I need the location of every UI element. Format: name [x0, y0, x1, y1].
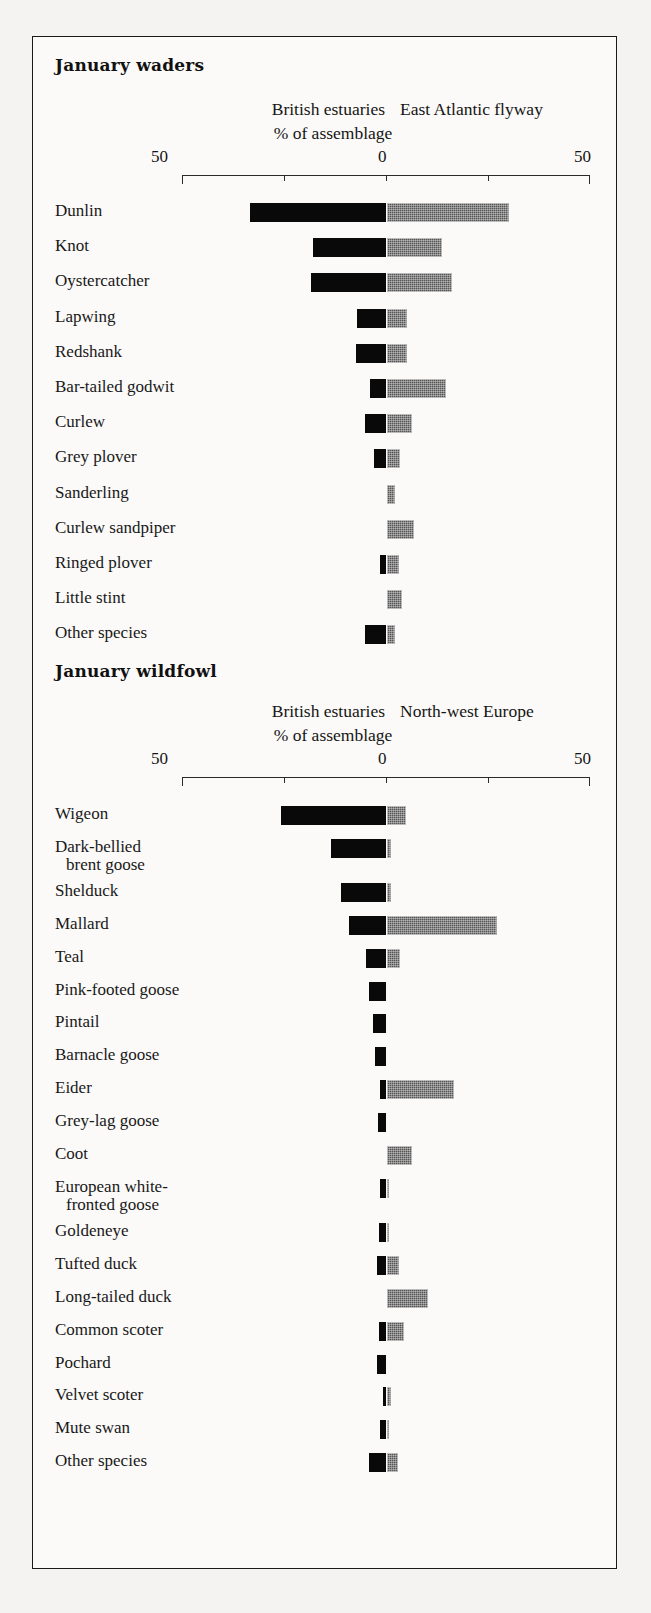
category-label: Curlew sandpiper — [55, 519, 175, 537]
axis-tick-label-left-wildfowl: 50 — [151, 749, 168, 769]
bar-left-british-estuaries — [349, 916, 387, 935]
category-label: Other species — [55, 624, 147, 642]
bar-left-british-estuaries — [379, 1223, 387, 1242]
category-label: Common scoter — [55, 1321, 163, 1339]
bar-right-north-west-europe — [387, 1223, 389, 1242]
panel-title-wildfowl: January wildfowl — [55, 661, 217, 681]
bar-left-british-estuaries — [356, 344, 386, 363]
axis-tick-minor-right-wildfowl — [488, 777, 489, 783]
axis-tick-label-right-wildfowl: 50 — [574, 749, 591, 769]
bar-left-british-estuaries — [311, 273, 387, 292]
bar-right-north-west-europe — [387, 1146, 413, 1165]
bar-right-north-west-europe — [387, 1179, 389, 1198]
bar-left-british-estuaries — [370, 379, 387, 398]
category-label: Bar-tailed godwit — [55, 378, 174, 396]
bar-right-east-atlantic-flyway — [387, 625, 396, 644]
bar-right-east-atlantic-flyway — [387, 238, 443, 257]
category-label: Tufted duck — [55, 1255, 137, 1273]
axis-tick-label-zero-waders: 0 — [378, 147, 387, 167]
category-label: Pink-footed goose — [55, 981, 179, 999]
bar-right-east-atlantic-flyway — [387, 449, 400, 468]
bar-right-north-west-europe — [387, 1256, 400, 1275]
panel-title-waders: January waders — [55, 55, 204, 75]
bar-left-british-estuaries — [331, 839, 387, 858]
axis-tick-zero-wildfowl — [386, 777, 387, 783]
category-label: Wigeon — [55, 805, 108, 823]
axis-tick-label-left-waders: 50 — [151, 147, 168, 167]
bar-left-british-estuaries — [375, 1047, 387, 1066]
bar-left-british-estuaries — [313, 238, 387, 257]
bar-right-east-atlantic-flyway — [387, 520, 415, 539]
category-label: Sanderling — [55, 484, 129, 502]
category-label: Grey plover — [55, 448, 137, 466]
category-label: Shelduck — [55, 882, 118, 900]
category-label: Dark-belliedbrent goose — [55, 838, 145, 875]
axis-label-wildfowl: % of assemblage — [233, 725, 433, 746]
figure-frame: January waders British estuaries East At… — [32, 36, 617, 1569]
category-label: Lapwing — [55, 308, 115, 326]
category-label: Mallard — [55, 915, 109, 933]
bar-left-british-estuaries — [373, 1014, 387, 1033]
bar-right-north-west-europe — [387, 1420, 389, 1439]
bar-right-north-west-europe — [387, 806, 406, 825]
category-label: Eider — [55, 1079, 92, 1097]
category-label: Oystercatcher — [55, 272, 149, 290]
bar-left-british-estuaries — [380, 1179, 387, 1198]
bar-right-north-west-europe — [387, 839, 392, 858]
bar-right-north-west-europe — [387, 1322, 404, 1341]
bar-right-east-atlantic-flyway — [387, 309, 408, 328]
bar-left-british-estuaries — [380, 1420, 386, 1439]
bar-left-british-estuaries — [369, 1453, 386, 1472]
bar-left-british-estuaries — [378, 1113, 387, 1132]
bar-right-east-atlantic-flyway — [387, 203, 509, 222]
bar-left-british-estuaries — [374, 449, 386, 468]
category-label: Grey-lag goose — [55, 1112, 159, 1130]
bar-right-east-atlantic-flyway — [387, 485, 396, 504]
bar-right-east-atlantic-flyway — [387, 273, 453, 292]
legend-right-label-waders: East Atlantic flyway — [400, 99, 630, 120]
bar-right-north-west-europe — [387, 883, 392, 902]
axis-tick-left-wildfowl — [182, 777, 183, 786]
bar-right-north-west-europe — [387, 916, 497, 935]
category-label: Dunlin — [55, 202, 102, 220]
bar-right-east-atlantic-flyway — [387, 555, 400, 574]
bar-right-north-west-europe — [387, 1080, 455, 1099]
category-label: Mute swan — [55, 1419, 130, 1437]
bar-right-east-atlantic-flyway — [387, 379, 446, 398]
category-label: Teal — [55, 948, 84, 966]
category-label: Coot — [55, 1145, 88, 1163]
axis-tick-minor-left-waders — [284, 175, 285, 181]
category-label: Pintail — [55, 1013, 99, 1031]
category-label: Goldeneye — [55, 1222, 129, 1240]
axis-tick-label-zero-wildfowl: 0 — [378, 749, 387, 769]
category-label: Velvet scoter — [55, 1386, 143, 1404]
figure-page: January waders British estuaries East At… — [0, 0, 651, 1613]
axis-tick-minor-left-wildfowl — [284, 777, 285, 783]
axis-label-waders: % of assemblage — [233, 123, 433, 144]
category-label: Barnacle goose — [55, 1046, 159, 1064]
bar-left-british-estuaries — [365, 414, 387, 433]
axis-tick-zero-waders — [386, 175, 387, 181]
bar-left-british-estuaries — [379, 1322, 386, 1341]
bar-right-north-west-europe — [387, 1289, 428, 1308]
category-label: Pochard — [55, 1354, 111, 1372]
category-label: Long-tailed duck — [55, 1288, 172, 1306]
axis-tick-right-waders — [589, 175, 590, 184]
bar-right-north-west-europe — [387, 949, 400, 968]
bar-left-british-estuaries — [369, 982, 387, 1001]
bar-right-north-west-europe — [387, 1387, 392, 1406]
bar-left-british-estuaries — [380, 555, 386, 574]
category-label: European white-fronted goose — [55, 1178, 168, 1215]
bar-left-british-estuaries — [366, 949, 387, 968]
bar-right-east-atlantic-flyway — [387, 414, 413, 433]
bar-left-british-estuaries — [357, 309, 387, 328]
bar-left-british-estuaries — [377, 1256, 386, 1275]
legend-left-label-wildfowl: British estuaries — [93, 701, 385, 722]
category-label: Redshank — [55, 343, 122, 361]
legend-left-label-waders: British estuaries — [93, 99, 385, 120]
axis-tick-label-right-waders: 50 — [574, 147, 591, 167]
legend-right-label-wildfowl: North-west Europe — [400, 701, 630, 722]
bar-right-north-west-europe — [387, 1453, 398, 1472]
bar-left-british-estuaries — [341, 883, 387, 902]
axis-tick-minor-right-waders — [488, 175, 489, 181]
